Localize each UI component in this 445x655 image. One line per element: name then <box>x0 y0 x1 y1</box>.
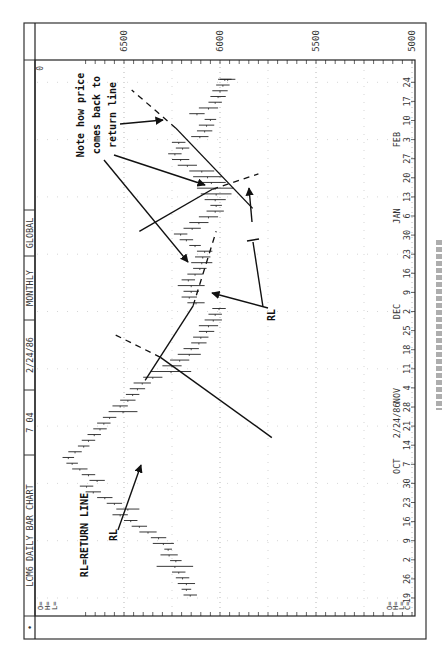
date-tick-label: 2 <box>402 309 412 314</box>
return-line <box>160 357 271 437</box>
date-tick-label: 30 <box>402 478 412 488</box>
trendline <box>176 128 253 208</box>
trendlines <box>114 90 271 438</box>
note-annotation-line: comes back to <box>91 76 102 154</box>
date-tick-label: 9 <box>402 538 412 543</box>
date-tick-label: 26 <box>402 574 412 584</box>
price-tick-label: 6000 <box>215 30 225 52</box>
date-tick-label: 21 <box>402 421 412 431</box>
date-tick-label: 17 <box>402 96 412 106</box>
date-tick-label: 25 <box>402 325 412 335</box>
date-tick-label: 27 <box>402 154 412 164</box>
figure-caption-partial <box>436 240 442 410</box>
header-cell: 2/24/86 <box>25 337 35 373</box>
header-cell: LCM6 DAILY BAR CHART <box>25 484 35 586</box>
month-label: OCT <box>392 459 402 474</box>
header-cell: 7 04 <box>25 412 35 432</box>
note-annotation-line: Note how price <box>75 73 86 157</box>
month-label: NOV <box>392 388 402 403</box>
rl-pointer-line <box>253 242 263 307</box>
arrow-rl-2 <box>212 293 268 308</box>
header-cell: MONTHLY <box>25 270 35 306</box>
date-tick-label: 16 <box>402 516 412 526</box>
date-tick-label: 16 <box>402 268 412 278</box>
date-tick-label: 23 <box>402 497 412 507</box>
date-tick-label: 28 <box>402 402 412 412</box>
date-tick-label: 4 <box>402 385 412 390</box>
date-tick-label: 9 <box>402 290 412 295</box>
date-tick-label: 13 <box>402 192 412 202</box>
note-annotation-line: return line <box>107 82 118 148</box>
date-tick-label: 18 <box>402 345 412 355</box>
corner-value: 0 <box>36 66 45 71</box>
date-tick-label: 14 <box>402 440 412 450</box>
price-tick-label: 5000 <box>407 30 417 52</box>
arrow-note-1 <box>120 120 163 124</box>
annotation-arrows <box>104 120 268 530</box>
date-tick-label: 24 <box>402 77 412 87</box>
return-line <box>139 189 212 231</box>
month-label: 2/24/86 <box>392 402 402 438</box>
date-tick-label: 7 <box>402 462 412 467</box>
trendline <box>145 306 193 380</box>
date-tick-label: 20 <box>402 173 412 183</box>
price-tick-label: 5500 <box>311 30 321 52</box>
label-rl: RL <box>108 529 119 541</box>
legend-return-line: RL=RETURN LINE <box>79 493 90 577</box>
ohlc-label: L= <box>51 602 59 610</box>
axis-ticks <box>86 60 415 616</box>
month-label: DEC <box>392 304 402 319</box>
date-tick-label: 6 <box>402 213 412 218</box>
date-tick-label: 30 <box>402 230 412 240</box>
rl-pointer-cap <box>247 239 259 241</box>
date-tick-label: 10 <box>402 115 412 125</box>
arrow-note-2 <box>114 155 205 185</box>
header-cell: GLOBAL <box>25 218 35 249</box>
date-tick-label: 2 <box>402 557 412 562</box>
date-tick-label: 23 <box>402 249 412 259</box>
date-tick-label: 3 <box>402 137 412 142</box>
label-rl: RL <box>266 309 277 321</box>
month-label: JAN <box>392 208 402 223</box>
return-line-extension <box>114 334 160 357</box>
header-cell: • <box>25 625 35 630</box>
ohlc-label: C= <box>404 602 412 610</box>
price-tick-label: 6500 <box>119 30 129 52</box>
date-tick-label: 11 <box>402 364 412 374</box>
chart-header: •LCM6 DAILY BAR CHART7 042/24/86MONTHLYG… <box>24 23 45 639</box>
month-label: FEB <box>392 132 402 147</box>
ohlc-bar-chart: •LCM6 DAILY BAR CHART7 042/24/86MONTHLYG… <box>0 0 445 655</box>
